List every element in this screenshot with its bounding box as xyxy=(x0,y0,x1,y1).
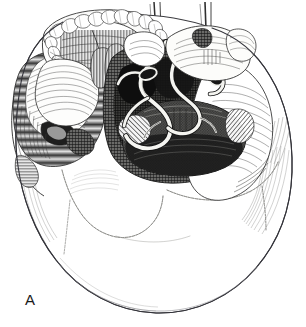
maxillary-tuberosity xyxy=(35,59,98,126)
anatomical-figure: A xyxy=(0,0,306,327)
panel-label: A xyxy=(25,292,36,307)
skull-base-illustration xyxy=(0,0,306,327)
